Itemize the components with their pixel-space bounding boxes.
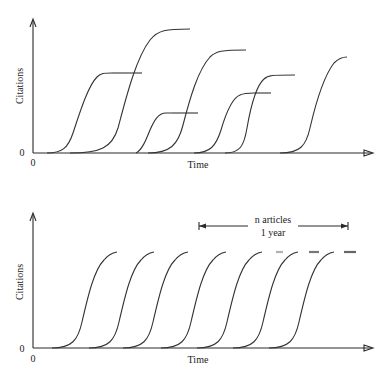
- top-y-axis-label: Citations: [14, 68, 25, 104]
- top-curve-7: [280, 57, 347, 153]
- range-left-arrowhead-icon: [199, 224, 206, 229]
- bottom-panel: Citations Time 0 0 n articles 1 year: [14, 213, 373, 365]
- top-curve-6: [225, 75, 295, 153]
- bottom-curve-6: [233, 252, 298, 348]
- bottom-curve-3: [123, 252, 188, 348]
- bottom-x-axis-label: Time: [188, 354, 209, 365]
- bottom-y-origin-label: 0: [20, 343, 25, 354]
- annotation-1-year: 1 year: [261, 227, 286, 238]
- annotation-n-articles: n articles: [255, 214, 291, 225]
- range-right-arrowhead-icon: [341, 224, 348, 229]
- bottom-curve-7: [269, 252, 334, 348]
- bottom-curve-5: [197, 252, 262, 348]
- range-annotation: n articles 1 year: [199, 214, 348, 238]
- top-y-origin-label: 0: [20, 147, 25, 158]
- top-curve-5: [194, 93, 254, 153]
- bottom-curve-1: [52, 252, 117, 348]
- top-curve-1: [47, 73, 112, 153]
- bottom-x-origin-label: 0: [31, 353, 36, 364]
- top-curve-4: [148, 50, 246, 153]
- top-x-axis-label: Time: [188, 159, 209, 170]
- top-x-origin-label: 0: [31, 157, 36, 168]
- bottom-curves: [52, 252, 334, 348]
- citation-curves-diagram: Citations Time 0 0 Citations Time 0 0: [0, 0, 382, 374]
- top-curve-3: [136, 113, 172, 153]
- bottom-y-axis-label: Citations: [14, 264, 25, 300]
- top-panel: Citations Time 0 0: [14, 19, 373, 170]
